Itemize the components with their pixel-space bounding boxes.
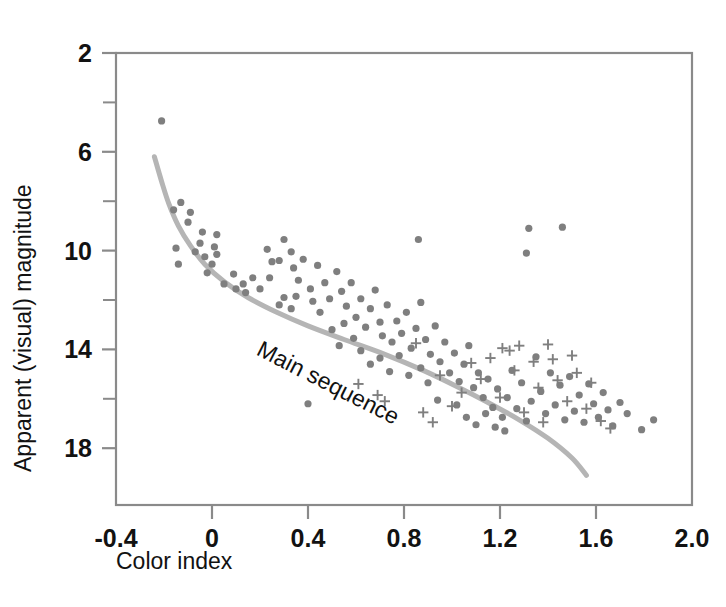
scatter-point-dot [220, 280, 227, 287]
scatter-point-dot [424, 379, 431, 386]
y-axis-title: Apparent (visual) magnitude [10, 184, 36, 472]
scatter-point-dot [204, 269, 211, 276]
scatter-point-dot [379, 332, 386, 339]
scatter-point-dot [489, 404, 496, 411]
scatter-point-dot [208, 261, 215, 268]
scatter-point-dot [300, 256, 307, 263]
x-tick-label: 1.6 [579, 524, 614, 552]
scatter-point-dot [396, 352, 403, 359]
scatter-point-dot [232, 285, 239, 292]
scatter-point-dot [367, 361, 374, 368]
scatter-point-dot [192, 248, 199, 255]
scatter-point-dot [463, 414, 470, 421]
y-tick-label: 2 [78, 39, 92, 67]
x-axis-title: Color index [116, 548, 233, 574]
scatter-point-dot [199, 228, 206, 235]
scatter-point-dot [451, 349, 458, 356]
scatter-point-dot [336, 342, 343, 349]
x-tick-label: 0.8 [387, 524, 422, 552]
scatter-point-dot [362, 324, 369, 331]
scatter-point-dot [525, 225, 532, 232]
scatter-point-dot [638, 426, 645, 433]
scatter-point-dot [280, 294, 287, 301]
y-tick-label: 6 [78, 138, 92, 166]
scatter-point-dot [340, 320, 347, 327]
y-tick-label: 14 [64, 335, 92, 363]
scatter-point-dot [292, 293, 299, 300]
scatter-point-dot [492, 424, 499, 431]
scatter-point-dot [295, 277, 302, 284]
y-tick-label: 18 [64, 434, 92, 462]
scatter-point-dot [316, 309, 323, 316]
scatter-point-dot [170, 206, 177, 213]
scatter-point-dot [434, 396, 441, 403]
scatter-point-dot [446, 369, 453, 376]
y-tick-label: 10 [64, 237, 92, 265]
scatter-point-dot [600, 389, 607, 396]
scatter-point-dot [357, 347, 364, 354]
scatter-point-dot [376, 319, 383, 326]
scatter-point-dot [616, 399, 623, 406]
scatter-point-dot [547, 369, 554, 376]
scatter-point-dot [408, 345, 415, 352]
scatter-point-dot [288, 305, 295, 312]
scatter-point-dot [513, 405, 520, 412]
x-tick-label: 0.4 [291, 524, 326, 552]
scatter-point-dot [372, 287, 379, 294]
scatter-point-dot [276, 257, 283, 264]
scatter-point-dot [398, 330, 405, 337]
scatter-point-dot [376, 354, 383, 361]
scatter-point-dot [472, 421, 479, 428]
scatter-point-dot [242, 289, 249, 296]
scatter-point-dot [393, 317, 400, 324]
scatter-point-dot [580, 419, 587, 426]
scatter-point-dot [403, 309, 410, 316]
color-magnitude-chart: 26101418 -0.400.40.81.21.62.0 Main seque… [0, 0, 726, 607]
scatter-point-dot [288, 248, 295, 255]
scatter-point-dot [528, 398, 535, 405]
scatter-point-dot [384, 301, 391, 308]
scatter-point-dot [412, 325, 419, 332]
scatter-point-dot [576, 391, 583, 398]
scatter-point-dot [650, 416, 657, 423]
scatter-point-dot [561, 416, 568, 423]
scatter-point-dot [256, 285, 263, 292]
scatter-point-dot [456, 378, 463, 385]
scatter-point-dot [172, 245, 179, 252]
scatter-point-dot [196, 240, 203, 247]
scatter-point-dot [177, 199, 184, 206]
scatter-point-dot [624, 410, 631, 417]
scatter-point-dot [453, 401, 460, 408]
scatter-point-dot [604, 406, 611, 413]
scatter-point-dot [307, 285, 314, 292]
scatter-point-dot [494, 385, 501, 392]
scatter-point-dot [326, 295, 333, 302]
scatter-point-dot [276, 301, 283, 308]
scatter-point-dot [388, 338, 395, 345]
scatter-point-dot [436, 358, 443, 365]
scatter-point-dot [333, 268, 340, 275]
scatter-point-dot [415, 236, 422, 243]
scatter-point-dot [249, 274, 256, 281]
scatter-point-dot [314, 262, 321, 269]
scatter-point-dot [590, 400, 597, 407]
scatter-point-dot [304, 400, 311, 407]
scatter-point-dot [328, 326, 335, 333]
scatter-point-dot [571, 408, 578, 415]
scatter-point-dot [523, 417, 530, 424]
scatter-point-dot [427, 351, 434, 358]
scatter-point-dot [352, 314, 359, 321]
scatter-point-dot [417, 364, 424, 371]
scatter-point-dot [480, 394, 487, 401]
scatter-point-dot [230, 270, 237, 277]
scatter-point-dot [482, 410, 489, 417]
scatter-point-dot [187, 209, 194, 216]
scatter-point-dot [158, 117, 165, 124]
scatter-point-dot [264, 246, 271, 253]
scatter-point-dot [240, 280, 247, 287]
chart-background [0, 0, 726, 607]
scatter-point-dot [348, 279, 355, 286]
scatter-point-dot [211, 243, 218, 250]
scatter-point-dot [422, 336, 429, 343]
scatter-point-dot [523, 249, 530, 256]
